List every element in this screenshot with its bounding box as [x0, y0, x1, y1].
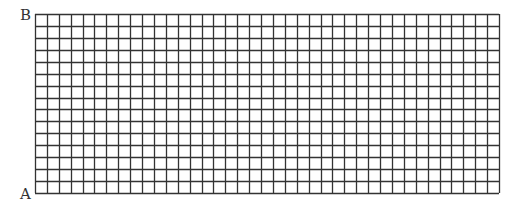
- grid-diagram: [0, 0, 513, 211]
